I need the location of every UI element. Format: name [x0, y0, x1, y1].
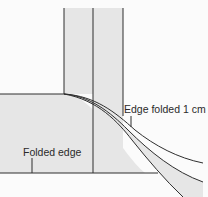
diagram-drawing [0, 0, 208, 197]
fold-diagram: Edge folded 1 cm Folded edge [0, 0, 208, 197]
edge-folded-label: Edge folded 1 cm [124, 104, 206, 115]
folded-edge-label: Folded edge [23, 147, 81, 158]
